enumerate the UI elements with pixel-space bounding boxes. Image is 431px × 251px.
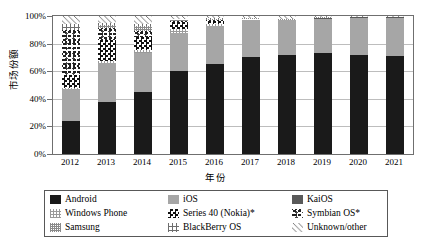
bar-segment-unknown-other bbox=[386, 16, 405, 17]
kaios-swatch bbox=[292, 195, 303, 204]
bar-segment-android bbox=[386, 56, 405, 154]
bar-segment-windows-phone bbox=[206, 24, 225, 26]
bar-segment-android bbox=[170, 71, 189, 154]
bar-segment-unknown-other bbox=[278, 16, 297, 19]
bar-segment-android bbox=[134, 92, 153, 154]
bar-segment-unknown-other bbox=[62, 16, 81, 24]
bar-segment-kaios bbox=[314, 18, 333, 19]
legend-item-kaios[interactable]: KaiOS bbox=[292, 194, 388, 205]
legend-item-windows-phone[interactable]: Windows Phone bbox=[50, 208, 168, 219]
legend-label: Android bbox=[65, 194, 97, 205]
bar-segment-ios bbox=[98, 63, 117, 102]
legend-label: Series 40 (Nokia)* bbox=[183, 208, 255, 219]
bar-segment-kaios bbox=[350, 17, 369, 18]
bar-segment-symbian-os- bbox=[98, 28, 117, 40]
x-axis-tick-label: 2016 bbox=[205, 157, 223, 168]
bar-segment-unknown-other bbox=[206, 16, 225, 18]
android-swatch bbox=[50, 195, 61, 204]
legend-item-ios[interactable]: iOS bbox=[168, 194, 292, 205]
bar-segment-blackberry-os bbox=[62, 24, 81, 30]
bar-segment-kaios bbox=[386, 17, 405, 18]
legend-item-symbian-os-[interactable]: Symbian OS* bbox=[292, 208, 388, 219]
bar-segment-blackberry-os bbox=[134, 24, 153, 25]
bar-segment-blackberry-os bbox=[170, 19, 189, 20]
bar-segment-samsung bbox=[314, 17, 333, 18]
x-axis-tick-label: 2015 bbox=[169, 157, 187, 168]
bar-segment-unknown-other bbox=[314, 16, 333, 17]
x-axis-title: 年份 bbox=[0, 170, 431, 184]
bar-segment-android bbox=[278, 55, 297, 154]
x-axis-tick-label: 2021 bbox=[385, 157, 403, 168]
bar-segment-ios bbox=[242, 20, 261, 57]
bar-segment-symbian-os- bbox=[206, 20, 225, 21]
bar-segment-unknown-other bbox=[170, 16, 189, 19]
bar-segment-android bbox=[98, 102, 117, 154]
plot-area bbox=[52, 15, 414, 155]
y-axis-tick bbox=[47, 154, 52, 155]
bar-segment-windows-phone bbox=[62, 88, 81, 89]
bar-segment-windows-phone bbox=[134, 50, 153, 53]
bar-segment-ios bbox=[170, 33, 189, 72]
bar-segment-symbian-os- bbox=[170, 21, 189, 22]
bar-segment-ios bbox=[134, 53, 153, 92]
bar-segment-android bbox=[314, 53, 333, 154]
bar-2016 bbox=[206, 16, 225, 154]
y-axis-tick bbox=[47, 16, 52, 17]
y-axis-tick-label: 40% bbox=[30, 94, 47, 103]
y-axis-tick bbox=[47, 44, 52, 45]
series40-swatch bbox=[168, 209, 179, 218]
legend-item-android[interactable]: Android bbox=[50, 194, 168, 205]
legend-item-series-40-nokia-[interactable]: Series 40 (Nokia)* bbox=[168, 208, 292, 219]
bar-segment-series-40-nokia- bbox=[242, 19, 261, 20]
x-axis-tick-label: 2012 bbox=[61, 157, 79, 168]
bar-segment-ios bbox=[350, 17, 369, 54]
x-axis-tick-label: 2017 bbox=[241, 157, 259, 168]
bar-segment-samsung bbox=[134, 26, 153, 31]
bar-segment-samsung bbox=[98, 25, 117, 28]
bar-segment-symbian-os- bbox=[62, 30, 81, 76]
bar-2021 bbox=[386, 16, 405, 154]
bar-segment-windows-phone bbox=[242, 19, 261, 20]
bar-segment-series-40-nokia- bbox=[206, 21, 225, 24]
bar-segment-series-40-nokia- bbox=[98, 40, 117, 61]
legend-label: iOS bbox=[183, 194, 198, 205]
legend-label: Unknown/other bbox=[307, 222, 367, 233]
bar-2020 bbox=[350, 16, 369, 154]
bar-segment-samsung bbox=[278, 19, 297, 20]
bar-2013 bbox=[98, 16, 117, 154]
bar-segment-windows-phone bbox=[170, 29, 189, 32]
bar-segment-ios bbox=[206, 26, 225, 65]
y-axis-tick bbox=[47, 99, 52, 100]
bar-segment-blackberry-os bbox=[98, 23, 117, 25]
y-axis-tick-label: 20% bbox=[30, 122, 47, 131]
legend-label: Samsung bbox=[65, 222, 100, 233]
bar-2014 bbox=[134, 16, 153, 154]
bar-segment-android bbox=[62, 121, 81, 154]
bar-segment-ios bbox=[314, 19, 333, 54]
bar-segment-android bbox=[242, 57, 261, 154]
bar-segment-series-40-nokia- bbox=[170, 22, 189, 29]
symbian-swatch bbox=[292, 209, 303, 218]
y-axis-tick bbox=[47, 71, 52, 72]
bar-2017 bbox=[242, 16, 261, 154]
legend-label: BlackBerry OS bbox=[183, 222, 241, 233]
x-axis-tick-label: 2013 bbox=[97, 157, 115, 168]
bar-2015 bbox=[170, 16, 189, 154]
legend-item-samsung[interactable]: Samsung bbox=[50, 222, 168, 233]
bar-segment-ios bbox=[62, 89, 81, 121]
bar-segment-symbian-os- bbox=[134, 31, 153, 38]
y-axis-tick-labels: 0%20%40%60%80%100% bbox=[14, 15, 50, 155]
x-axis-tick-label: 2018 bbox=[277, 157, 295, 168]
bar-segment-ios bbox=[386, 17, 405, 56]
legend-item-blackberry-os[interactable]: BlackBerry OS bbox=[168, 222, 292, 233]
bar-segment-unknown-other bbox=[98, 16, 117, 23]
bar-segment-series-40-nokia- bbox=[62, 75, 81, 87]
y-axis-tick-label: 0% bbox=[34, 150, 46, 159]
windows-phone-swatch bbox=[50, 209, 61, 218]
bar-segment-unknown-other bbox=[134, 16, 153, 24]
bar-segment-unknown-other bbox=[242, 16, 261, 18]
legend-label: Symbian OS* bbox=[307, 208, 360, 219]
y-axis-tick bbox=[47, 126, 52, 127]
legend-item-unknown-other[interactable]: Unknown/other bbox=[292, 222, 388, 233]
bar-segment-samsung bbox=[242, 18, 261, 19]
